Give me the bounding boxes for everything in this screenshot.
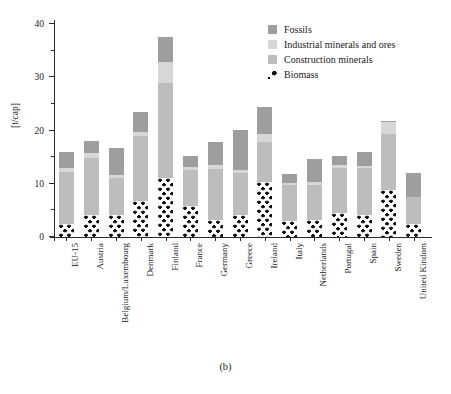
bar-segment-fossils bbox=[357, 152, 372, 165]
bar-segment-construction bbox=[357, 168, 372, 215]
bar-spain[interactable] bbox=[357, 152, 372, 237]
bar-italy[interactable] bbox=[282, 174, 297, 237]
bar-segment-industrial bbox=[257, 134, 272, 142]
x-axis-label-eu-15: EU-15 bbox=[70, 243, 80, 267]
bar-segment-construction bbox=[307, 185, 322, 220]
bar-segment-fossils bbox=[406, 173, 421, 197]
x-tick-11 bbox=[339, 237, 340, 241]
bar-segment-construction bbox=[406, 197, 421, 224]
legend-label: Biomass bbox=[284, 69, 318, 80]
legend-item-fossils[interactable]: Fossils bbox=[268, 22, 395, 36]
bar-germany[interactable] bbox=[208, 142, 223, 237]
legend-label: Industrial minerals and ores bbox=[284, 39, 395, 50]
bar-segment-biomass bbox=[257, 182, 272, 237]
bar-ireland[interactable] bbox=[257, 107, 272, 237]
construction-swatch bbox=[268, 55, 277, 64]
y-tick-label-20: 20 bbox=[20, 126, 44, 136]
x-axis-label-ireland: Ireland bbox=[269, 243, 279, 268]
figure-b: [t/cap] 010203040 FossilsIndustrial mine… bbox=[0, 0, 451, 394]
x-tick-13 bbox=[389, 237, 390, 241]
bar-segment-industrial bbox=[381, 122, 396, 134]
x-axis-label-spain: Spain bbox=[368, 243, 378, 264]
bar-segment-biomass bbox=[84, 215, 99, 237]
x-axis-label-sweden: Sweden bbox=[393, 243, 403, 272]
x-axis-label-austria: Austria bbox=[95, 243, 105, 270]
bar-segment-biomass bbox=[158, 178, 173, 237]
x-tick-3 bbox=[141, 237, 142, 241]
x-tick-2 bbox=[116, 237, 117, 241]
x-tick-4 bbox=[166, 237, 167, 241]
y-tick-minor-35 bbox=[51, 50, 54, 51]
bar-segment-fossils bbox=[59, 152, 74, 168]
x-tick-7 bbox=[240, 237, 241, 241]
bar-segment-fossils bbox=[282, 174, 297, 183]
bar-segment-biomass bbox=[332, 213, 347, 237]
x-axis-label-italy: Italy bbox=[294, 243, 304, 260]
y-tick-label-0: 0 bbox=[20, 232, 44, 242]
x-axis-label-greece: Greece bbox=[244, 243, 254, 268]
bar-belgium-luxembourg[interactable] bbox=[109, 148, 124, 237]
legend-item-construction-minerals[interactable]: Construction minerals bbox=[268, 52, 395, 66]
bar-greece[interactable] bbox=[233, 130, 248, 237]
bar-segment-construction bbox=[332, 168, 347, 213]
bar-segment-biomass bbox=[208, 220, 223, 237]
bar-segment-construction bbox=[257, 142, 272, 182]
x-axis-label-portugal: Portugal bbox=[343, 243, 353, 274]
bar-segment-construction bbox=[84, 158, 99, 214]
bar-segment-construction bbox=[133, 136, 148, 201]
x-axis-label-belgium-luxembourg: Belgium/Luxembourg bbox=[120, 243, 130, 323]
bar-finland[interactable] bbox=[158, 37, 173, 237]
y-tick-label-30: 30 bbox=[20, 72, 44, 82]
y-tick-40 bbox=[49, 23, 54, 24]
y-tick-minor-15 bbox=[51, 156, 54, 157]
bar-segment-industrial bbox=[307, 182, 322, 185]
legend-label: Construction minerals bbox=[284, 54, 373, 65]
bar-denmark[interactable] bbox=[133, 112, 148, 237]
bar-segment-biomass bbox=[233, 215, 248, 237]
legend-item-industrial-minerals-and-ores[interactable]: Industrial minerals and ores bbox=[268, 37, 395, 51]
bar-segment-fossils bbox=[109, 148, 124, 175]
bar-eu-15[interactable] bbox=[59, 152, 74, 237]
y-tick-label-40: 40 bbox=[20, 19, 44, 29]
bar-segment-industrial bbox=[59, 168, 74, 172]
x-tick-1 bbox=[91, 237, 92, 241]
x-axis-line bbox=[50, 237, 432, 238]
bar-france[interactable] bbox=[183, 156, 198, 237]
bar-sweden[interactable] bbox=[381, 121, 396, 237]
y-tick-20 bbox=[49, 130, 54, 131]
bar-segment-fossils bbox=[332, 156, 347, 165]
figure-caption: (b) bbox=[0, 361, 451, 372]
bar-segment-fossils bbox=[257, 107, 272, 134]
fossils-swatch bbox=[268, 25, 277, 34]
bar-segment-biomass bbox=[282, 221, 297, 238]
bar-segment-construction bbox=[109, 178, 124, 215]
bar-segment-industrial bbox=[109, 175, 124, 178]
x-tick-0 bbox=[66, 237, 67, 241]
bar-segment-construction bbox=[158, 83, 173, 179]
x-axis-label-france: France bbox=[194, 243, 204, 268]
x-tick-14 bbox=[414, 237, 415, 241]
bar-segment-industrial bbox=[332, 165, 347, 168]
bar-segment-construction bbox=[59, 172, 74, 224]
legend-item-biomass[interactable]: Biomass bbox=[268, 67, 395, 81]
bar-segment-fossils bbox=[307, 159, 322, 182]
bar-netherlands[interactable] bbox=[307, 159, 322, 237]
x-axis-label-netherlands: Netherlands bbox=[318, 243, 328, 286]
bar-segment-biomass bbox=[357, 215, 372, 237]
bar-segment-biomass bbox=[406, 224, 421, 237]
bar-segment-fossils bbox=[381, 121, 396, 122]
x-axis-label-denmark: Denmark bbox=[145, 243, 155, 277]
legend-label: Fossils bbox=[284, 24, 312, 35]
bar-segment-industrial bbox=[282, 183, 297, 185]
bar-united-kindom[interactable] bbox=[406, 173, 421, 237]
x-tick-12 bbox=[364, 237, 365, 241]
bar-austria[interactable] bbox=[84, 141, 99, 237]
bar-segment-construction bbox=[233, 173, 248, 215]
x-tick-8 bbox=[265, 237, 266, 241]
bar-segment-fossils bbox=[158, 37, 173, 62]
x-axis-label-united-kindom: United Kindom bbox=[418, 243, 428, 299]
bar-segment-construction bbox=[282, 185, 297, 221]
x-axis-label-finland: Finland bbox=[170, 243, 180, 271]
x-tick-5 bbox=[190, 237, 191, 241]
bar-portugal[interactable] bbox=[332, 156, 347, 237]
